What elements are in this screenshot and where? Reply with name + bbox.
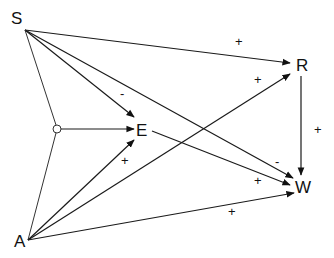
node-w-label: W <box>295 178 311 197</box>
edge-a-to-junction <box>28 133 56 240</box>
edge-s-to-r <box>25 30 290 63</box>
node-r-label: R <box>296 56 308 75</box>
sign-s-w: - <box>275 154 279 169</box>
edge-s-to-e <box>25 30 134 117</box>
edge-a-to-r <box>28 74 290 240</box>
causal-diagram: S R E W A + - - + + + + + <box>0 0 334 258</box>
edge-a-to-w <box>28 193 294 240</box>
sign-s-r: + <box>235 34 243 49</box>
edge-a-to-e <box>28 140 134 240</box>
sign-a-r: + <box>254 72 262 87</box>
node-a-label: A <box>14 232 26 251</box>
node-e-label: E <box>136 121 147 140</box>
sign-s-e: - <box>120 86 124 101</box>
edge-s-to-w <box>25 30 293 178</box>
sign-r-w: + <box>314 122 322 137</box>
sign-a-e: + <box>121 153 129 168</box>
sign-e-w: + <box>254 173 262 188</box>
sign-a-w: + <box>228 204 236 219</box>
junction-node <box>53 125 61 133</box>
edge-e-to-w <box>152 131 290 185</box>
node-s-label: S <box>11 9 22 28</box>
